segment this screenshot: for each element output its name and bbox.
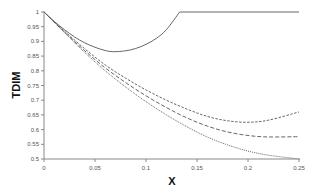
y-tick-label: 0.5 bbox=[31, 156, 40, 162]
plot-lines bbox=[44, 12, 299, 159]
y-tick-label: 0.95 bbox=[27, 24, 39, 30]
series-line-solid bbox=[44, 12, 299, 52]
x-tick-label: 0.1 bbox=[142, 165, 151, 171]
y-tick-label: 0.7 bbox=[31, 97, 40, 103]
x-tick-label: 0.25 bbox=[293, 165, 305, 171]
x-axis-title: X bbox=[168, 175, 176, 187]
x-tick-label: 0.05 bbox=[89, 165, 101, 171]
y-axis-title: TDIM bbox=[10, 72, 22, 99]
x-tick-label: 0.15 bbox=[191, 165, 203, 171]
y-tick-label: 0.6 bbox=[31, 127, 40, 133]
y-tick-label: 0.8 bbox=[31, 68, 40, 74]
x-tick-label: 0 bbox=[42, 165, 46, 171]
x-ticks: 00.050.10.150.20.25 bbox=[42, 159, 305, 171]
y-tick-label: 0.85 bbox=[27, 53, 39, 59]
y-tick-label: 0.55 bbox=[27, 141, 39, 147]
y-tick-label: 0.65 bbox=[27, 112, 39, 118]
y-tick-label: 0.75 bbox=[27, 83, 39, 89]
y-ticks: 0.50.550.60.650.70.750.80.850.90.951 bbox=[27, 9, 44, 162]
series-line-short-dash bbox=[44, 12, 299, 122]
y-tick-label: 1 bbox=[36, 9, 40, 15]
y-tick-label: 0.9 bbox=[31, 38, 40, 44]
line-chart: 0.50.550.60.650.70.750.80.850.90.951 00.… bbox=[0, 0, 313, 189]
x-tick-label: 0.2 bbox=[244, 165, 253, 171]
axes bbox=[44, 11, 300, 159]
